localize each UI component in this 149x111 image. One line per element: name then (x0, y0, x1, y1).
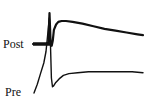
pre-trace (34, 18, 143, 93)
traces-group (33, 13, 143, 93)
post-label: Post (3, 37, 24, 51)
figure-canvas: Post Pre (0, 0, 149, 111)
pre-label: Pre (5, 85, 21, 99)
